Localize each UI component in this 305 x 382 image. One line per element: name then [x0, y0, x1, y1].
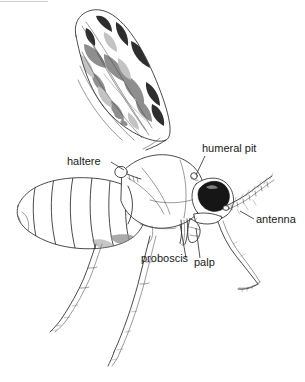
midleg-joints — [112, 261, 155, 360]
annotation-antenna: antenna — [240, 211, 297, 225]
haltere-label: haltere — [67, 155, 101, 167]
hindleg-femur — [62, 244, 96, 318]
annotation-haltere: haltere — [67, 155, 124, 170]
foreleg-upper — [218, 222, 258, 284]
annotation-palp: palp — [194, 228, 215, 268]
proboscis-tip — [180, 243, 185, 245]
antenna-scape — [223, 206, 229, 211]
midleg-tarsus — [108, 352, 114, 366]
antenna-label: antenna — [256, 213, 297, 225]
antenna-leader-line — [240, 211, 254, 219]
insect-diagram-canvas: haltere humeral pit antenna proboscis pa… — [0, 0, 305, 382]
wing — [75, 10, 170, 150]
proboscis-label: proboscis — [141, 252, 189, 264]
thorax-body — [121, 155, 204, 229]
antenna-segments — [231, 182, 268, 210]
foreleg — [218, 221, 260, 292]
hindleg — [50, 239, 114, 332]
palp-label: palp — [194, 256, 215, 268]
head — [192, 178, 234, 224]
annotation-humeral-pit: humeral pit — [196, 142, 256, 175]
humeral-pit-label: humeral pit — [202, 142, 256, 154]
insect-diagram-figure: haltere humeral pit antenna proboscis pa… — [0, 0, 305, 382]
humeral-pit-leader-line — [196, 156, 205, 175]
